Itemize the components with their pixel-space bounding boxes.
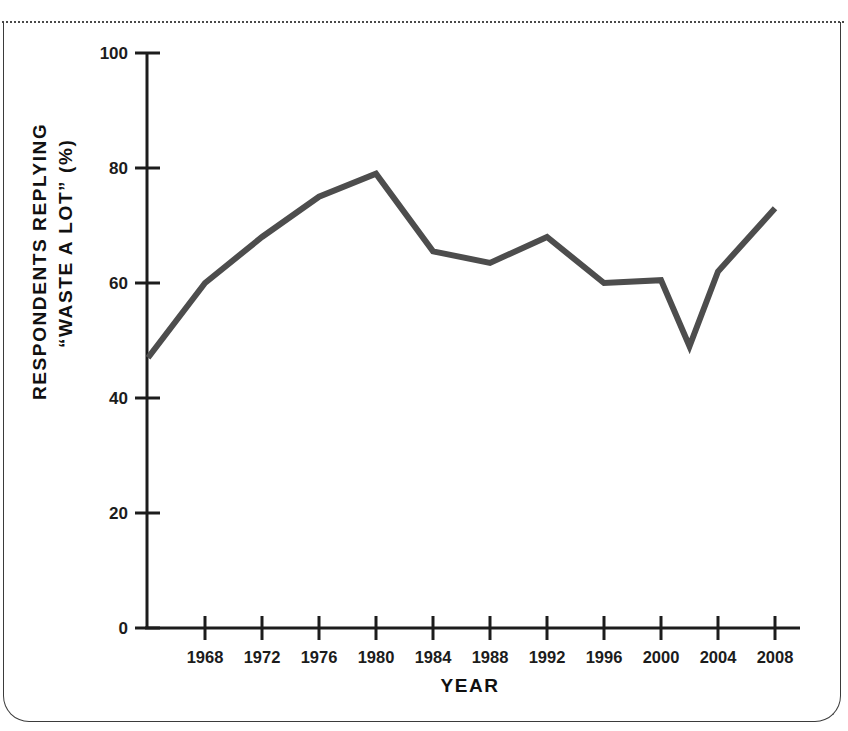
x-tick-label: 1980 [358,648,395,666]
x-tick-label: 1972 [244,648,281,666]
data-series-line [148,174,775,358]
x-axis-title: YEAR [440,675,499,696]
x-tick-label: 2004 [700,648,738,666]
y-tick-label: 0 [119,619,128,638]
x-tick-label: 2008 [757,648,794,666]
x-tick-label: 1976 [301,648,338,666]
x-tick-label: 1996 [586,648,623,666]
y-tick-label: 40 [109,389,128,408]
x-tick-label: 1984 [415,648,453,666]
y-tick-label: 20 [109,504,128,523]
x-tick-label: 1968 [187,648,224,666]
x-tick-label: 2000 [643,648,680,666]
line-chart: RESPONDENTS REPLYING “WASTE A LOT” (%) 0… [0,0,848,731]
y-axis-title: RESPONDENTS REPLYING “WASTE A LOT” (%) [29,123,76,400]
x-tick-label: 1992 [529,648,566,666]
y-axis-title-line1: RESPONDENTS REPLYING [29,123,50,400]
figure-root: RESPONDENTS REPLYING “WASTE A LOT” (%) 0… [0,0,848,731]
y-axis-title-line2: “WASTE A LOT” (%) [55,139,76,348]
y-tick-label: 100 [100,44,128,63]
axis-lines [145,53,800,628]
y-tick-label: 60 [109,274,128,293]
y-tick-label: 80 [109,159,128,178]
x-axis-ticks: 1968197219761980198419881992199620002004… [187,616,794,666]
x-tick-label: 1988 [472,648,509,666]
y-axis-ticks: 020406080100 [100,44,160,638]
